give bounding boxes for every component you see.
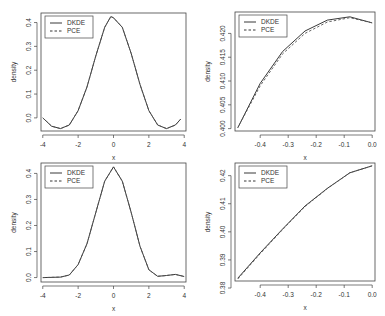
- y-axis-label: density: [10, 211, 18, 232]
- x-tick-label: 2: [147, 141, 151, 148]
- legend-label-pce: PCE: [67, 177, 81, 184]
- x-axis-label: x: [112, 154, 116, 161]
- legend-label-pce: PCE: [67, 27, 81, 34]
- y-tick-label: 0.4: [25, 18, 32, 27]
- legend: DKDEPCE: [239, 166, 287, 188]
- legend: DKDEPCE: [45, 166, 93, 188]
- x-axis: -4-2024: [40, 135, 187, 148]
- y-axis-label: density: [10, 61, 18, 82]
- x-tick-label: -4: [40, 292, 46, 299]
- legend-label-dkde: DKDE: [261, 18, 280, 25]
- x-tick-label: -0.1: [339, 141, 351, 148]
- legend: DKDEPCE: [239, 15, 287, 37]
- x-tick-label: -2: [75, 292, 81, 299]
- x-axis: -4-2024: [40, 286, 187, 299]
- y-tick-label: 0.400: [219, 120, 226, 137]
- panel-bottom-left: -4-2024x0.00.10.20.30.4densityDKDEPCE: [10, 163, 186, 312]
- x-tick-label: -0.3: [283, 141, 295, 148]
- panel-top-left: -4-2024x0.00.10.20.30.4densityDKDEPCE: [10, 13, 186, 161]
- y-tick-label: 0.38: [219, 281, 226, 294]
- x-axis-label: x: [303, 154, 307, 161]
- y-tick-label: 0.1: [25, 247, 32, 256]
- y-axis: 0.00.10.20.30.4: [25, 18, 37, 123]
- y-axis-label: density: [204, 60, 212, 81]
- y-tick-label: 0.40: [219, 225, 226, 238]
- y-tick-label: 0.2: [25, 65, 32, 74]
- panel-bottom-right: -0.4-0.3-0.2-0.10.0x0.380.390.400.410.42…: [204, 163, 377, 311]
- y-tick-label: 0.0: [25, 273, 32, 282]
- y-tick-label: 0.2: [25, 221, 32, 230]
- y-axis: 0.00.10.20.30.4: [25, 169, 37, 283]
- x-tick-label: -0.3: [283, 291, 295, 298]
- y-tick-label: 0.405: [219, 96, 226, 113]
- x-tick-label: -0.2: [311, 141, 323, 148]
- panel-top-right: -0.4-0.3-0.2-0.10.0x0.4000.4050.4100.415…: [204, 12, 377, 161]
- x-tick-label: -0.2: [311, 291, 323, 298]
- legend-label-dkde: DKDE: [67, 19, 86, 26]
- y-tick-label: 0.410: [219, 73, 226, 90]
- x-tick-label: 4: [182, 292, 186, 299]
- y-tick-label: 0.41: [219, 197, 226, 210]
- x-tick-label: -0.4: [255, 291, 267, 298]
- y-tick-label: 0.4: [25, 169, 32, 178]
- x-tick-label: 4: [182, 141, 186, 148]
- y-axis: 0.4000.4050.4100.4150.420: [219, 25, 231, 137]
- legend: DKDEPCE: [45, 16, 93, 38]
- legend-label-pce: PCE: [261, 26, 275, 33]
- x-tick-label: -0.4: [255, 141, 267, 148]
- x-tick-label: 0.0: [368, 291, 377, 298]
- x-tick-label: 0.0: [368, 141, 377, 148]
- x-tick-label: 0: [112, 292, 116, 299]
- x-axis: -0.4-0.3-0.2-0.10.0: [255, 285, 377, 298]
- y-tick-label: 0.3: [25, 41, 32, 50]
- y-axis: 0.380.390.400.410.42: [219, 169, 231, 294]
- figure: -4-2024x0.00.10.20.30.4densityDKDEPCE-0.…: [0, 0, 385, 316]
- x-axis-label: x: [112, 305, 116, 312]
- y-tick-label: 0.420: [219, 25, 226, 42]
- y-axis-label: density: [204, 211, 212, 232]
- y-tick-label: 0.42: [219, 169, 226, 182]
- y-tick-label: 0.39: [219, 253, 226, 266]
- x-tick-label: -2: [75, 141, 81, 148]
- y-tick-label: 0.3: [25, 195, 32, 204]
- y-tick-label: 0.1: [25, 89, 32, 98]
- x-tick-label: 2: [147, 292, 151, 299]
- x-axis: -0.4-0.3-0.2-0.10.0: [255, 135, 377, 148]
- legend-label-dkde: DKDE: [67, 169, 86, 176]
- legend-label-pce: PCE: [261, 177, 275, 184]
- x-axis-label: x: [303, 304, 307, 311]
- x-tick-label: 0: [112, 141, 116, 148]
- y-tick-label: 0.0: [25, 113, 32, 122]
- x-tick-label: -4: [40, 141, 46, 148]
- y-tick-label: 0.415: [219, 49, 226, 66]
- x-tick-label: -0.1: [339, 291, 351, 298]
- legend-label-dkde: DKDE: [261, 169, 280, 176]
